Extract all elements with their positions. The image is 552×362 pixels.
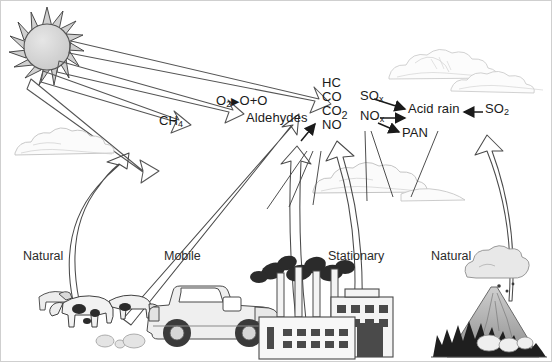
acid-rain-label: Acid rain	[408, 102, 459, 116]
atomic-oxygen-label: O+O	[239, 93, 267, 108]
sunlight-arrow-to-photolysis	[57, 61, 244, 123]
aldehydes-label: Aldehydes	[246, 111, 308, 125]
sox-label: SOx	[360, 89, 384, 103]
source-label-mobile: Mobile	[164, 249, 201, 263]
source-label-stationary: Stationary	[328, 249, 384, 263]
cloud-center	[313, 162, 465, 201]
pollutant-co2: CO2	[322, 104, 348, 118]
nox-label: NOx	[360, 109, 384, 123]
source-stationary-factory	[250, 253, 393, 359]
so2-label: SO2	[485, 102, 509, 116]
arrow-nox-to-pan	[378, 123, 399, 132]
cloud-left	[15, 128, 114, 155]
source-natural-livestock	[39, 292, 162, 348]
diagram-canvas	[1, 1, 552, 362]
sunlight-arrow-to-surface	[27, 79, 159, 183]
pan-label: PAN	[402, 126, 428, 140]
sun-icon	[9, 7, 84, 85]
volcano-ash-plume	[465, 246, 529, 278]
photolysis-reaction: O2▶O+O	[216, 94, 268, 108]
source-label-natural-right: Natural	[431, 249, 471, 263]
methane-label: CH4	[159, 114, 183, 128]
o2-label: O2	[216, 93, 231, 108]
primary-pollutants-list: HC CO CO2 NO	[322, 76, 348, 132]
pollutant-co: CO	[322, 90, 348, 104]
pollution-diagram: O2▶O+O Aldehydes CH4 HC CO CO2 NO SOx NO…	[0, 0, 552, 362]
arrow-aldehydes-feed	[301, 124, 315, 141]
emission-arrow-livestock	[69, 153, 129, 301]
source-label-natural-left: Natural	[23, 249, 63, 263]
pollutant-hc: HC	[322, 76, 348, 90]
